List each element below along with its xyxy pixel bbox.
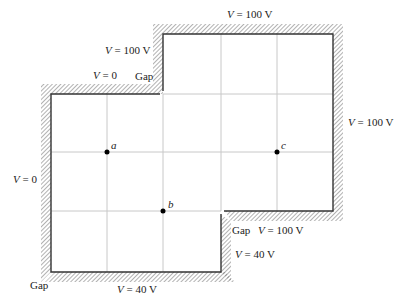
point-c — [275, 150, 280, 155]
boundary-left-region — [51, 94, 221, 272]
wall-right — [333, 24, 343, 221]
wall-top — [153, 24, 343, 34]
boundary-right-region — [163, 34, 333, 211]
label-gap-bottom-left: Gap — [30, 279, 49, 291]
point-c-label: c — [281, 139, 286, 151]
label-bottom-right-upper: V = 100 V — [258, 224, 303, 236]
wall-bottom — [45, 272, 235, 282]
wall-top-left — [41, 84, 163, 94]
diagram-canvas: a b c V = 100 V V = 100 V V = 0 Gap V = … — [0, 0, 405, 308]
label-gap-top: Gap — [135, 70, 154, 82]
label-right: V = 100 V — [348, 116, 393, 128]
point-b — [161, 209, 166, 214]
wall-step-vertical — [153, 24, 163, 94]
label-left: V = 0 — [13, 173, 37, 185]
label-gap-bottom-right: Gap — [232, 224, 251, 236]
label-top-right: V = 100 V — [227, 8, 272, 20]
points: a b c — [105, 139, 287, 214]
label-top-left: V = 0 — [93, 69, 117, 81]
wall-lower-step — [221, 215, 231, 282]
wall-left — [41, 84, 51, 282]
wall-bottom-right — [225, 211, 343, 221]
hatched-walls — [41, 24, 343, 282]
label-upper-step: V = 100 V — [105, 44, 150, 56]
point-a-label: a — [111, 139, 117, 151]
label-bottom: V = 40 V — [117, 283, 157, 295]
label-bottom-right-lower: V = 40 V — [235, 248, 275, 260]
point-a — [105, 150, 110, 155]
point-b-label: b — [168, 198, 174, 210]
